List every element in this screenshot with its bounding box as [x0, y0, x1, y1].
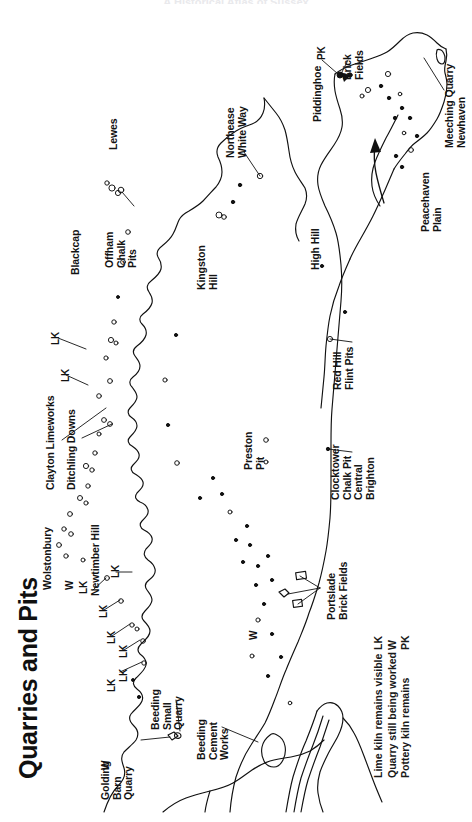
- map-code-w-golding: W: [100, 761, 111, 770]
- map-code-lk-downs-b: LK: [106, 631, 117, 644]
- legend-row: Quarry still being worked W: [386, 635, 400, 778]
- map-label-newtimber-hill: Newtimber Hill: [90, 524, 102, 596]
- map-code-lk-newtimber: LK: [110, 565, 121, 578]
- legend-row: Pottery kiln remains PK: [399, 635, 413, 778]
- legend-row: Lime kiln remains visible LK: [372, 635, 386, 778]
- legend-description: Quarry still being worked: [386, 650, 400, 778]
- brick-field-shape-c: [279, 589, 289, 597]
- beeding-river: [163, 740, 324, 812]
- map-code-w-newtimber: W: [64, 581, 75, 590]
- beeding-river-branch: [205, 791, 210, 812]
- map-label-kingston-hill: Kingston Hill: [196, 245, 219, 290]
- leader-pk-piddinghoe: [322, 60, 338, 74]
- map-code-w-portslade: W: [248, 631, 259, 640]
- map-label-piddinghoe: Piddinghoe: [312, 66, 324, 122]
- map-label-brick-fields: Brick Fields: [342, 50, 365, 80]
- shore-line-a: [286, 711, 317, 812]
- map-code-lk-downs-a: LK: [98, 605, 109, 618]
- legend-code: PK: [399, 635, 413, 650]
- brick-field-rect-b: [293, 599, 303, 607]
- map-label-red-hill-flint-pits: Red Hill Flint Pits: [332, 347, 355, 390]
- legend-description: Lime kiln remains visible: [372, 650, 386, 778]
- map-label-beeding-small-quarry: Beeding Small Quarry: [150, 689, 185, 730]
- map-label-ditchling-downs: Ditchling Downs: [66, 409, 78, 490]
- leader-portslade-brickfields-2: [300, 576, 320, 588]
- map-label-clayton-limeworks: Clayton Limeworks: [45, 395, 57, 490]
- legend: Lime kiln remains visible LK Quarry stil…: [372, 635, 413, 778]
- map-label-northease-white-way: Northease White Way: [225, 106, 248, 158]
- map-label-preston-pit: Preston Pit: [243, 432, 266, 470]
- map-code-lk-ditchling-b: LK: [60, 369, 71, 382]
- beeding-cement-works-outline: [262, 734, 286, 768]
- map-label-high-hill: High Hill: [310, 228, 322, 270]
- map-code-lk-newtimber-2: LK: [78, 581, 89, 594]
- quarry-markers: [57, 71, 419, 704]
- meeching-quarry-outline: [436, 49, 445, 64]
- map-label-beeding-cement-works: Beeding Cement Works: [196, 719, 231, 760]
- map-code-lk-downs-e: LK: [106, 679, 117, 692]
- map-label-portslade-brick-fields: Portslade Brick Fields: [326, 562, 349, 620]
- map-code-lk-downs-c: LK: [118, 645, 129, 658]
- map-label-meeching-quarry: Meeching Quarry Newhaven: [444, 64, 467, 148]
- leader-lk-a: [58, 338, 86, 349]
- map-label-offham-chalk-pits: Offham Chalk Pits: [104, 232, 139, 268]
- north-arrow-head: [370, 138, 381, 153]
- map-code-lk-ditchling-a: LK: [50, 332, 61, 345]
- map-label-wolstonbury: Wolstonbury: [42, 527, 54, 590]
- leader-red-hill: [330, 339, 352, 342]
- map-label-blackcap: Blackcap: [70, 230, 82, 275]
- map-label-clocktower-chalk-pit: Clocktower Chalk Pit Central Brighton: [330, 444, 376, 500]
- leader-offham: [122, 192, 134, 206]
- leader-ditchling-downs: [82, 424, 112, 438]
- map-label-peacehaven-plain: Peacehaven Plain: [420, 172, 443, 232]
- map-label-lewes: Lewes: [108, 118, 120, 150]
- map-code-pk-piddinghoe: PK: [316, 46, 327, 60]
- leader-golding-barn: [141, 737, 170, 740]
- peacehaven-plain-boundary: [372, 115, 398, 206]
- legend-code: W: [386, 640, 400, 650]
- leader-meeching: [424, 58, 444, 90]
- legend-description: Pottery kiln remains: [399, 650, 413, 778]
- adur-estuary: [317, 703, 343, 812]
- map-canvas: A Historical Atlas of Sussex: [0, 0, 472, 822]
- map-code-lk-downs-d: LK: [118, 669, 129, 682]
- page-title: Quarries and Pits: [14, 577, 43, 779]
- ouse-valley-line: [264, 98, 307, 241]
- legend-code: LK: [372, 636, 386, 650]
